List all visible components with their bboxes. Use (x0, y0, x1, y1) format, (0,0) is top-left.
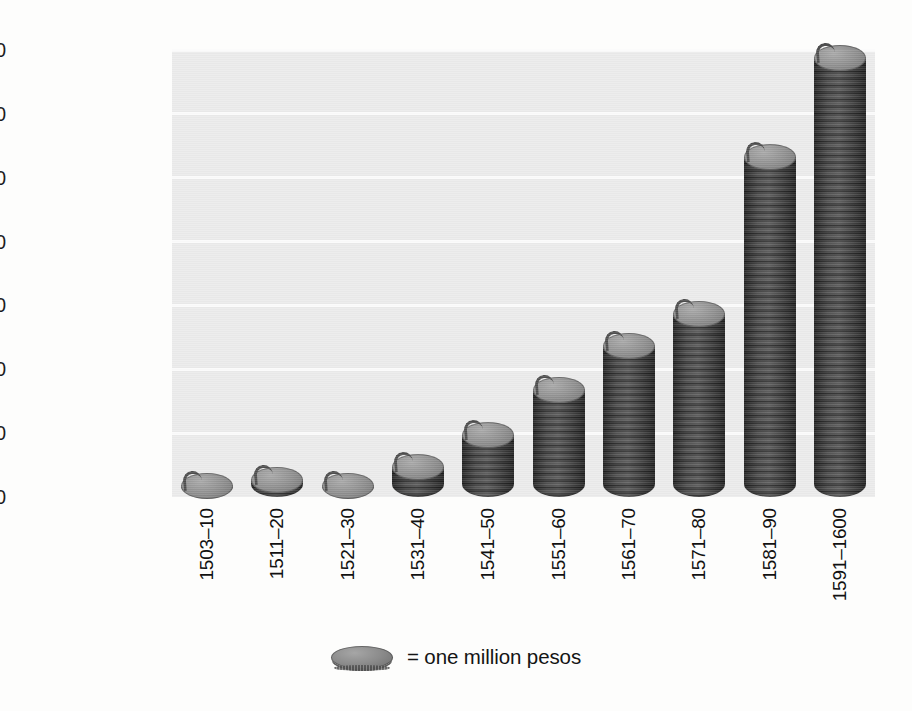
x-axis-tick-label: 1581–90 (759, 508, 781, 581)
y-axis-tick-label: 0 (0, 486, 6, 509)
x-axis-tick-label: 1503–10 (196, 508, 218, 581)
x-axis-tick-label: 1571–80 (688, 508, 710, 581)
chart-page: 010,000,00020,000,00030,000,00040,000,00… (0, 0, 912, 711)
x-axis-tick-label: 1511–20 (266, 508, 288, 579)
y-axis: 010,000,00020,000,00030,000,00040,000,00… (0, 0, 912, 711)
y-axis-tick-label: 30,000,000 (0, 294, 6, 317)
coin-stack-icon (331, 646, 393, 669)
x-axis-tick-label: 1531–40 (407, 508, 429, 581)
x-axis-tick-label: 1551–60 (548, 508, 570, 581)
legend-label: = one million pesos (407, 645, 581, 669)
x-axis-tick-label: 1521–30 (337, 508, 359, 581)
y-axis-tick-label: 10,000,000 (0, 422, 6, 445)
x-axis-tick-label: 1591–1600 (829, 508, 851, 601)
x-axis-tick-label: 1561–70 (618, 508, 640, 581)
y-axis-tick-label: 20,000,000 (0, 358, 6, 381)
x-axis-tick-label: 1541–50 (477, 508, 499, 581)
y-axis-tick-label: 40,000,000 (0, 230, 6, 253)
y-axis-tick-label: 60,000,000 (0, 102, 6, 125)
chart-legend: = one million pesos (0, 645, 912, 669)
y-axis-tick-label: 70,000,000 (0, 39, 6, 62)
y-axis-tick-label: 50,000,000 (0, 166, 6, 189)
